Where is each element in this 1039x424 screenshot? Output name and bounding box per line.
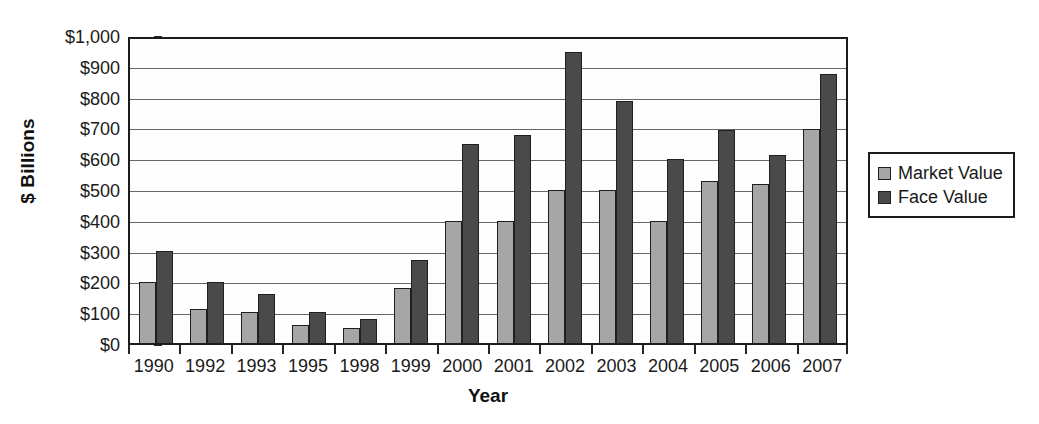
x-axis-tick-label: 1995 [282,355,333,379]
x-axis-tick-label: 2002 [539,355,590,379]
x-axis-tick-label: 2005 [694,355,745,379]
bar-market-value [497,221,514,343]
bar-market-value [701,181,718,343]
x-axis-tick-mark [385,345,387,354]
bar-face-value [514,135,531,343]
x-axis-tick-mark [282,345,284,354]
legend-item-label: Market Value [898,163,1003,183]
bar-group [744,39,795,343]
bar-face-value [462,144,479,343]
y-axis-tick-label: $100 [34,305,120,323]
bar-face-value [258,294,275,343]
x-axis-title: Year [128,385,848,407]
x-axis-tick-mark [128,345,130,354]
chart-legend: Market ValueFace Value [868,152,1015,218]
bar-group [693,39,744,343]
x-axis-tick-label: 2006 [745,355,796,379]
bar-chart: $ Billions $1,000$900$800$700$600$500$40… [0,0,1039,424]
bar-market-value [292,325,309,343]
bar-group [283,39,334,343]
x-axis-tick-mark [797,345,799,354]
x-axis-tick-label: 1993 [231,355,282,379]
x-axis-tick-mark [539,345,541,354]
bar-market-value [343,328,360,343]
bar-market-value [650,221,667,343]
y-axis-tick-label: $1,000 [34,28,120,46]
legend-item: Market Value [878,161,1003,185]
bar-face-value [565,52,582,343]
bar-group [488,39,539,343]
y-axis-tick-label: $600 [34,151,120,169]
x-axis-tick-label: 1999 [385,355,436,379]
bar-face-value [616,101,633,343]
y-axis-tick-labels: $1,000$900$800$700$600$500$400$300$200$1… [34,37,120,345]
bar-face-value [820,74,837,343]
bar-group [130,39,181,343]
bar-market-value [803,129,820,343]
bar-group [232,39,283,343]
x-axis-tick-labels: 1990199219931995199819992000200120022003… [128,355,848,379]
x-axis-tick-label: 1992 [179,355,230,379]
y-axis-tick-label: $700 [34,120,120,138]
bar-face-value [718,130,735,343]
x-axis-tick-mark [231,345,233,354]
bar-face-value [411,260,428,343]
bars-layer [130,39,846,343]
x-axis-tick-mark [591,345,593,354]
x-axis-tick-label: 2007 [796,355,847,379]
x-axis-tick-label: 2003 [591,355,642,379]
bar-market-value [139,282,156,343]
plot-area [128,37,848,345]
bar-face-value [156,251,173,343]
bar-group [437,39,488,343]
bar-group [386,39,437,343]
x-axis-tick-label: 1990 [128,355,179,379]
x-axis-tick-mark [334,345,336,354]
x-axis-tick-mark [745,345,747,354]
x-axis-tick-marks [128,345,848,354]
bar-market-value [445,221,462,343]
bar-group [539,39,590,343]
y-axis-tick-label: $800 [34,90,120,108]
legend-item-label: Face Value [898,187,988,207]
y-axis-tick-label: $200 [34,274,120,292]
bar-market-value [752,184,769,343]
x-axis-tick-mark [846,345,848,354]
bar-market-value [548,190,565,343]
bar-face-value [207,282,224,343]
x-axis-tick-mark [642,345,644,354]
bar-market-value [241,312,258,343]
bar-face-value [309,312,326,343]
x-axis-tick-label: 2000 [437,355,488,379]
x-axis-tick-mark [437,345,439,354]
y-axis-tick-label: $400 [34,213,120,231]
x-axis-tick-label: 1998 [334,355,385,379]
bar-market-value [599,190,616,343]
bar-group [795,39,846,343]
y-axis-tick-label: $900 [34,59,120,77]
bar-market-value [190,309,207,343]
x-axis-tick-mark [488,345,490,354]
bar-face-value [667,159,684,343]
bar-face-value [769,155,786,343]
bar-group [590,39,641,343]
x-axis-tick-label: 2001 [488,355,539,379]
x-axis-tick-label: 2004 [642,355,693,379]
y-axis-tick-label: $500 [34,182,120,200]
y-axis-tick-label: $300 [34,244,120,262]
x-axis-tick-mark [179,345,181,354]
bar-market-value [394,288,411,343]
legend-swatch-icon [878,167,891,180]
bar-group [181,39,232,343]
bar-group [335,39,386,343]
bar-face-value [360,319,377,343]
legend-item: Face Value [878,185,1003,209]
x-axis-tick-mark [694,345,696,354]
bar-group [641,39,692,343]
legend-swatch-icon [878,191,891,204]
y-axis-tick-label: $0 [34,336,120,354]
